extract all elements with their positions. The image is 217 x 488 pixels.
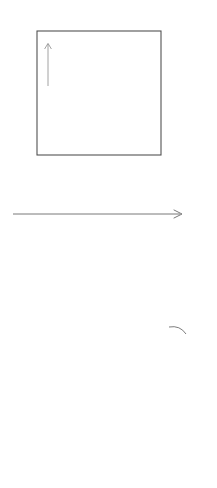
x-axis	[13, 210, 182, 218]
f-squared-leader-arc	[169, 327, 186, 334]
figure-canvas	[0, 0, 217, 488]
cobweb-figure	[0, 0, 217, 488]
invariant-box	[37, 31, 161, 155]
top-panel-f	[37, 31, 161, 155]
bottom-panel-f-squared	[169, 327, 186, 334]
up-arrow	[45, 43, 52, 86]
